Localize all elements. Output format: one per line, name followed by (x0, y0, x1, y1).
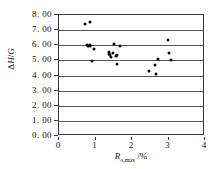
y-tick-label-8: 8. 00 (32, 10, 52, 19)
y-tick-label-7: 7. 00 (32, 25, 52, 34)
y-tick-label-2: 2. 00 (32, 100, 52, 109)
data-point (169, 59, 172, 62)
gridline-y-7 (59, 30, 203, 31)
y-tick-label-0: 0. 00 (32, 131, 52, 140)
gridline-y-5 (59, 60, 203, 61)
data-point (115, 54, 118, 57)
data-point (167, 51, 170, 54)
data-point (147, 69, 150, 72)
x-tick-label-4: 4 (202, 141, 207, 150)
plot-area (58, 14, 204, 135)
y-tick-label-3: 3. 00 (32, 85, 52, 94)
y-tick-label-1: 1. 00 (32, 115, 52, 124)
data-point (113, 43, 116, 46)
x-tick-label-3: 3 (165, 141, 170, 150)
data-point (157, 57, 160, 60)
x-tick-label-2: 2 (129, 141, 134, 150)
data-point (166, 39, 169, 42)
x-tick-label-0: 0 (56, 141, 61, 150)
y-tick-label-4: 4. 00 (32, 70, 52, 79)
data-point (89, 20, 92, 23)
y-tick-mark-0 (54, 135, 58, 136)
gridline-y-6 (59, 45, 203, 46)
data-point (84, 23, 87, 26)
gridline-y-3 (59, 91, 203, 92)
gridline-y-4 (59, 76, 203, 77)
gridline-y-2 (59, 106, 203, 107)
data-point (116, 62, 119, 65)
data-point (92, 48, 95, 51)
x-axis-tick-labels: 01234 (58, 137, 204, 151)
data-point (155, 73, 158, 76)
data-point (153, 63, 156, 66)
x-tick-label-1: 1 (92, 141, 97, 150)
x-axis-title: Ro,max /% (58, 151, 204, 163)
gridline-y-1 (59, 121, 203, 122)
data-point (89, 45, 92, 48)
scatter-chart-figure: ΔH/G 0. 001. 002. 003. 004. 005. 006. 00… (0, 0, 215, 169)
y-axis-tick-labels: 0. 001. 002. 003. 004. 005. 006. 007. 00… (0, 14, 56, 135)
data-point (90, 59, 93, 62)
y-tick-label-6: 6. 00 (32, 40, 52, 49)
data-point (110, 56, 113, 59)
data-point (119, 45, 122, 48)
y-tick-label-5: 5. 00 (32, 55, 52, 64)
